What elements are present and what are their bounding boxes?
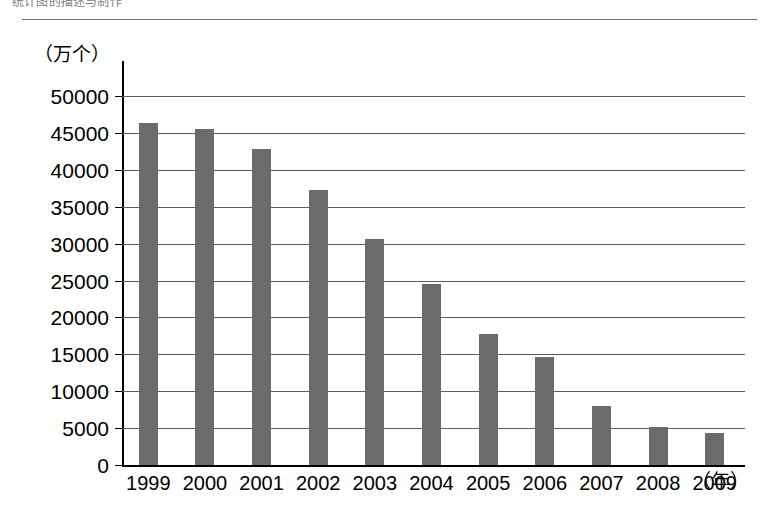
bar	[309, 190, 328, 465]
plot-area	[122, 96, 745, 465]
x-axis-tick-label: 2007	[571, 472, 631, 494]
x-axis-tick-label: 2001	[232, 472, 292, 494]
y-axis-tick-mark	[115, 133, 122, 134]
y-axis-tick-label: 50000	[17, 86, 109, 107]
y-axis-tick-mark	[115, 317, 122, 318]
y-axis-tick-mark	[115, 281, 122, 282]
x-axis-baseline	[122, 465, 745, 467]
bar	[479, 334, 498, 465]
y-axis-tick-label: 10000	[17, 381, 109, 402]
bar	[649, 427, 668, 465]
x-axis-tick-label: 2006	[515, 472, 575, 494]
x-axis-tick-label: 2003	[345, 472, 405, 494]
gridline	[122, 281, 745, 282]
y-axis-tick-mark	[115, 170, 122, 171]
y-axis-tick-label: 40000	[17, 160, 109, 181]
y-axis-tick-mark	[115, 207, 122, 208]
bar-chart-figure: （万个） （年） 5000045000400003500030000250002…	[0, 0, 777, 525]
bar	[535, 357, 554, 465]
gridline	[122, 207, 745, 208]
y-axis-tick-mark	[115, 354, 122, 355]
y-axis-tick-label: 0	[17, 455, 109, 476]
gridline	[122, 170, 745, 171]
y-axis-tick-label: 45000	[17, 123, 109, 144]
bar	[139, 123, 158, 465]
y-axis-unit-label: （万个）	[34, 44, 110, 66]
y-axis-tick-label: 35000	[17, 197, 109, 218]
y-axis-tick-mark	[115, 465, 122, 466]
y-axis-tick-label: 25000	[17, 271, 109, 292]
x-axis-tick-label: 1999	[118, 472, 178, 494]
x-axis-tick-label: 2009	[685, 472, 745, 494]
x-axis-tick-label: 2008	[628, 472, 688, 494]
y-axis-tick-mark	[115, 244, 122, 245]
y-axis-tick-label: 15000	[17, 344, 109, 365]
bar	[705, 433, 724, 465]
gridline	[122, 133, 745, 134]
y-axis-tick-label: 30000	[17, 234, 109, 255]
bar	[422, 284, 441, 465]
y-axis-tick-mark	[115, 96, 122, 97]
gridline	[122, 244, 745, 245]
x-axis-tick-label: 2000	[175, 472, 235, 494]
y-axis-tick-mark	[115, 428, 122, 429]
x-axis-tick-label: 2002	[288, 472, 348, 494]
gridline	[122, 96, 745, 97]
bar	[195, 129, 214, 465]
bar	[592, 406, 611, 465]
y-axis-tick-label: 20000	[17, 307, 109, 328]
bar	[252, 149, 271, 465]
y-axis-tick-label: 5000	[17, 418, 109, 439]
x-axis-tick-label: 2005	[458, 472, 518, 494]
y-axis-tick-mark	[115, 391, 122, 392]
x-axis-tick-label: 2004	[402, 472, 462, 494]
bar	[365, 239, 384, 465]
